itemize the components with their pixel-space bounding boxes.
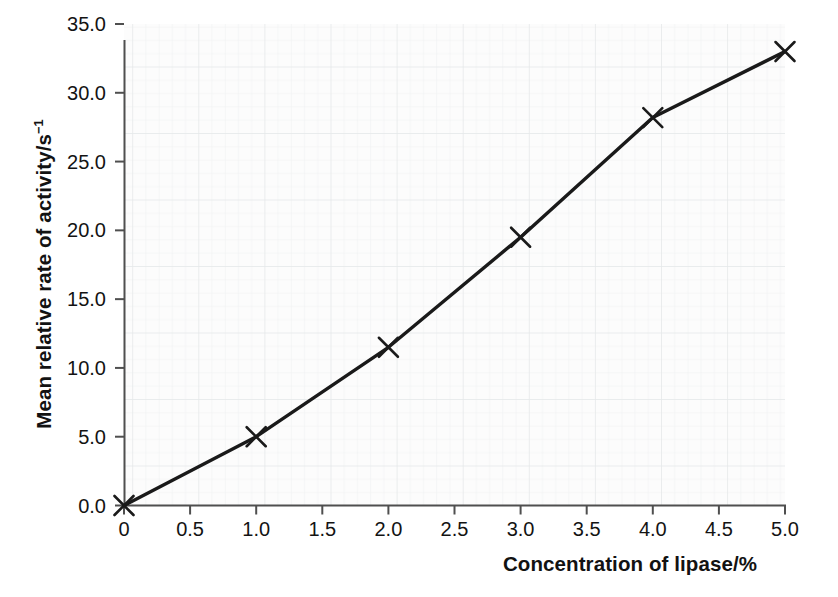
- y-tick-label: 35.0: [42, 14, 106, 34]
- x-tick-label: 2.0: [353, 519, 423, 539]
- x-tick-label: 4.5: [684, 519, 754, 539]
- x-tick-label: 2.5: [420, 519, 490, 539]
- x-tick-marks: [124, 506, 785, 515]
- x-tick-label: 1.0: [221, 519, 291, 539]
- x-tick-label: 4.0: [618, 519, 688, 539]
- y-tick-label: 0.0: [42, 496, 106, 516]
- chart-container: 0.05.010.015.020.025.030.035.0 00.51.01.…: [0, 0, 838, 597]
- y-axis-title-exponent: −1: [31, 119, 46, 134]
- x-tick-label: 1.5: [287, 519, 357, 539]
- x-axis-title: Concentration of lipase/%: [430, 552, 830, 576]
- plot-area: [0, 0, 838, 597]
- x-tick-label: 0.5: [155, 519, 225, 539]
- y-tick-marks: [115, 24, 124, 506]
- y-axis-title-text: Mean relative rate of activity/s: [32, 134, 55, 429]
- x-tick-label: 5.0: [750, 519, 820, 539]
- y-axis-title: Mean relative rate of activity/s−1: [32, 54, 56, 494]
- plot-grid: [124, 24, 785, 505]
- x-tick-label: 3.5: [552, 519, 622, 539]
- x-tick-label: 0: [89, 519, 159, 539]
- x-tick-label: 3.0: [486, 519, 556, 539]
